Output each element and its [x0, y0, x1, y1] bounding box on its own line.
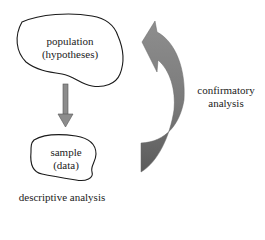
population-label-line1: population — [30, 35, 110, 48]
curved-arrow-icon — [141, 21, 184, 172]
sample-label-line1: sample — [38, 146, 94, 159]
descriptive-analysis-label: descriptive analysis — [10, 191, 114, 204]
confirmatory-label-line2: analysis — [188, 97, 264, 110]
sample-label-line2: (data) — [38, 159, 94, 172]
population-label-line2: (hypotheses) — [30, 48, 110, 61]
sample-label: sample (data) — [38, 146, 94, 172]
down-arrow-icon — [58, 84, 73, 127]
confirmatory-label-line1: confirmatory — [188, 84, 264, 97]
confirmatory-analysis-label: confirmatory analysis — [188, 84, 264, 110]
population-label: population (hypotheses) — [30, 35, 110, 61]
